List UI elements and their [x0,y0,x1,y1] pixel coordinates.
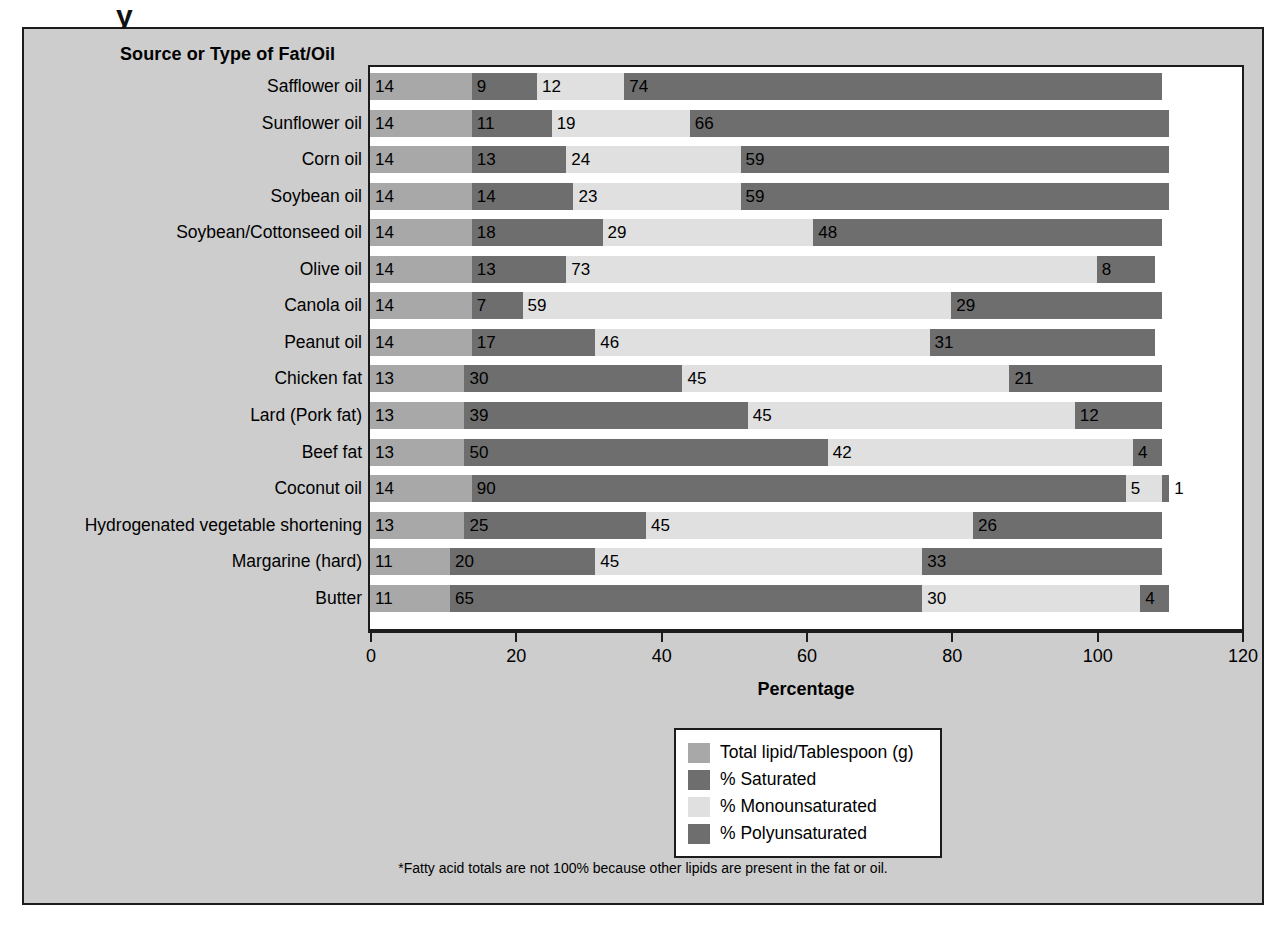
legend-item: Total lipid/Tablespoon (g) [688,739,928,766]
segment-value: 20 [455,548,474,575]
segment-value: 14 [375,329,394,356]
segment-value: 14 [375,146,394,173]
bar-segment-saturated: 65 [450,585,922,612]
segment-value: 12 [1080,402,1099,429]
segment-value: 39 [469,402,488,429]
segment-value: 45 [687,365,706,392]
x-axis-tick-label: 20 [506,646,526,667]
bar-segment-total: 13 [370,512,464,539]
legend-item: % Saturated [688,766,928,793]
bar-row: Sunflower oil14111966 [370,110,1169,137]
segment-value: 11 [477,110,495,137]
segment-value: 13 [375,512,394,539]
segment-value: 14 [375,73,394,100]
category-label: Peanut oil [284,329,362,356]
bar-segment-saturated: 90 [472,475,1126,502]
category-label: Margarine (hard) [232,548,362,575]
legend-label: % Monounsaturated [720,796,877,817]
bar-segment-polyunsaturated: 29 [951,292,1162,319]
x-axis-tick-label: 80 [942,646,962,667]
bar-row: Beef fat1350424 [370,439,1162,466]
segment-value: 13 [375,402,394,429]
legend-label: % Saturated [720,769,816,790]
x-axis-tick [1097,631,1099,642]
bar-segment-total: 14 [370,219,472,246]
segment-value: 31 [935,329,954,356]
segment-value: 45 [600,548,619,575]
bar-segment-monounsaturated: 45 [595,548,922,575]
bar-segment-monounsaturated: 19 [552,110,690,137]
segment-value: 50 [469,439,488,466]
segment-value: 13 [477,256,496,283]
segment-value: 13 [477,146,496,173]
bar-segment-polyunsaturated: 59 [741,183,1170,210]
bar-segment-monounsaturated: 24 [566,146,740,173]
bar-row: Corn oil14132459 [370,146,1169,173]
legend-label: Total lipid/Tablespoon (g) [720,742,914,763]
x-axis-tick-label: 40 [652,646,672,667]
segment-value: 14 [375,292,394,319]
bar-segment-total: 14 [370,146,472,173]
bar-segment-total: 14 [370,329,472,356]
segment-value: 12 [542,73,561,100]
chart-figure-panel: y Source or Type of Fat/Oil Safflower oi… [22,27,1264,905]
bar-row: Hydrogenated vegetable shortening1325452… [370,512,1162,539]
bar-row: Chicken fat13304521 [370,365,1162,392]
segment-value-outside: 1 [1174,475,1183,502]
segment-value: 59 [528,292,547,319]
segment-value: 4 [1138,439,1147,466]
bar-segment-saturated: 50 [464,439,827,466]
segment-value: 26 [978,512,997,539]
segment-value: 18 [477,219,496,246]
bar-segment-monounsaturated: 45 [682,365,1009,392]
bar-segment-total: 14 [370,292,472,319]
category-column-header: Source or Type of Fat/Oil [120,44,335,65]
category-label: Olive oil [300,256,362,283]
bar-segment-monounsaturated: 29 [603,219,814,246]
segment-value: 59 [746,183,765,210]
bar-segment-monounsaturated: 5 [1126,475,1162,502]
bar-segment-total: 14 [370,73,472,100]
bar-segment-saturated: 39 [464,402,747,429]
bar-segment-monounsaturated: 12 [537,73,624,100]
bar-segment-monounsaturated: 23 [573,183,740,210]
bar-segment-saturated: 14 [472,183,574,210]
segment-value: 11 [375,548,393,575]
segment-value: 8 [1102,256,1111,283]
x-axis-tick-label: 0 [366,646,376,667]
legend-swatch-monounsaturated [688,797,710,817]
x-axis: 020406080100120 [368,631,1244,633]
legend-swatch-saturated [688,770,710,790]
bar-segment-total: 14 [370,475,472,502]
bar-row: Safflower oil1491274 [370,73,1162,100]
segment-value: 42 [833,439,852,466]
segment-value: 14 [375,110,394,137]
bar-segment-total: 13 [370,439,464,466]
legend-swatch-polyunsaturated [688,824,710,844]
bar-segment-saturated: 25 [464,512,646,539]
x-axis-tick-label: 100 [1083,646,1113,667]
segment-value: 59 [746,146,765,173]
bar-segment-polyunsaturated: 21 [1009,365,1162,392]
segment-value: 14 [477,183,496,210]
bar-row: Butter1165304 [370,585,1169,612]
segment-value: 45 [651,512,670,539]
legend-item: % Polyunsaturated [688,820,928,847]
segment-value: 48 [818,219,837,246]
segment-value: 74 [629,73,648,100]
bar-row: Margarine (hard)11204533 [370,548,1162,575]
segment-value: 14 [375,475,394,502]
segment-value: 19 [557,110,576,137]
bar-segment-polyunsaturated: 59 [741,146,1170,173]
segment-value: 73 [571,256,590,283]
x-axis-tick [1242,631,1244,642]
category-label: Coconut oil [274,475,362,502]
legend-swatch-total [688,743,710,763]
segment-value: 13 [375,439,394,466]
segment-value: 5 [1131,475,1140,502]
bar-segment-monounsaturated: 30 [922,585,1140,612]
bar-row: Soybean oil14142359 [370,183,1169,210]
x-axis-tick-label: 60 [797,646,817,667]
category-label: Soybean oil [271,183,362,210]
segment-value: 90 [477,475,496,502]
